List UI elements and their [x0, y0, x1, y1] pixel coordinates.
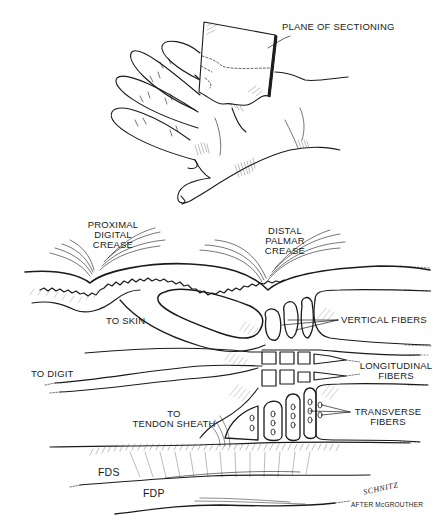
distal-palmar-crease-label: DISTAL PALMAR CREASE: [250, 226, 320, 256]
truncated-caption-strip: [0, 515, 448, 522]
longitudinal-fibers-label: LONGITUDINAL FIBERS: [356, 361, 436, 381]
anatomical-illustration: [0, 0, 448, 522]
proximal-digital-crease-label: PROXIMAL DIGITAL CREASE: [78, 220, 148, 250]
plane-of-sectioning-label: PLANE OF SECTIONING: [282, 22, 395, 32]
vertical-fibers-label: VERTICAL FIBERS: [341, 315, 427, 325]
fdp-label: FDP: [143, 488, 165, 498]
to-tendon-sheath-label: TO TENDON SHEATH: [126, 409, 222, 429]
transverse-fibers-label: TRANSVERSE FIBERS: [352, 407, 424, 427]
sectioning-plane: [199, 22, 290, 105]
fds-label: FDS: [98, 467, 120, 477]
attribution-label: AFTER McGROUTHER: [351, 500, 423, 510]
to-digit-label: TO DIGIT: [31, 369, 74, 379]
to-skin-label: TO SKIN: [106, 316, 145, 326]
